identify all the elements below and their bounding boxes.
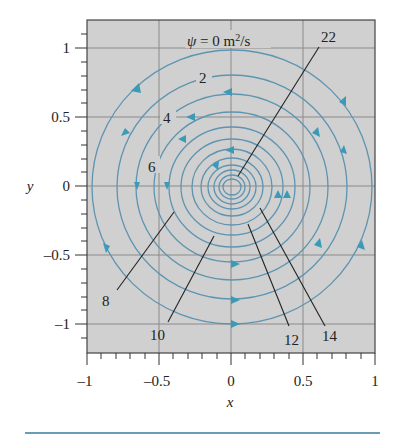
- x-tick-0.5: 0.5: [294, 373, 313, 389]
- x-axis-ticks: [87, 353, 375, 365]
- psi-zero-label: ψ = 0 m2/s: [187, 32, 250, 50]
- y-axis-ticks: [75, 34, 87, 338]
- contour-label-2: 2: [199, 70, 207, 86]
- x-tick-0: 0: [227, 373, 235, 389]
- y-tick-0.5: 0.5: [51, 109, 70, 125]
- x-axis-title: x: [226, 394, 234, 410]
- x-tick-neg0.5: –0.5: [143, 373, 170, 389]
- contour-label-12: 12: [284, 332, 299, 348]
- contour-label-14: 14: [322, 328, 338, 344]
- streamline-chart: 1 0.5 0 –0.5 –1 –1 –0.5 0 0.5 1 x y ψ = …: [0, 0, 403, 437]
- y-tick-neg1: –1: [54, 316, 70, 332]
- x-tick-1: 1: [371, 373, 379, 389]
- x-tick-neg1: –1: [77, 373, 93, 389]
- y-tick-0: 0: [63, 178, 71, 194]
- contour-label-22: 22: [321, 29, 336, 45]
- contour-label-8: 8: [102, 293, 110, 309]
- y-axis-title: y: [25, 178, 34, 194]
- contour-label-6: 6: [148, 159, 156, 175]
- contour-label-4: 4: [163, 110, 171, 126]
- y-tick-neg0.5: –0.5: [43, 247, 70, 263]
- contour-label-10: 10: [150, 327, 165, 343]
- y-tick-1: 1: [63, 40, 71, 56]
